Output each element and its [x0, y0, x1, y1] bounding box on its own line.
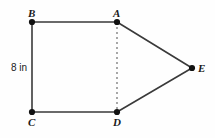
vertex-label-e: E	[198, 63, 205, 74]
vertex-dot-A	[114, 19, 120, 25]
edge-E-D	[117, 68, 192, 112]
side-length-label-bc: 8 in	[11, 63, 27, 73]
vertex-dot-C	[29, 109, 35, 115]
vertex-label-a: A	[113, 8, 120, 19]
geometry-figure: B A E D C 8 in	[0, 0, 215, 138]
vertex-label-b: B	[28, 8, 35, 19]
vertex-dot-E	[189, 65, 195, 71]
vertex-label-d: D	[113, 117, 121, 128]
vertex-dot-B	[29, 19, 35, 25]
vertex-dot-D	[114, 109, 120, 115]
edge-A-E	[117, 22, 192, 68]
vertex-label-c: C	[28, 117, 35, 128]
